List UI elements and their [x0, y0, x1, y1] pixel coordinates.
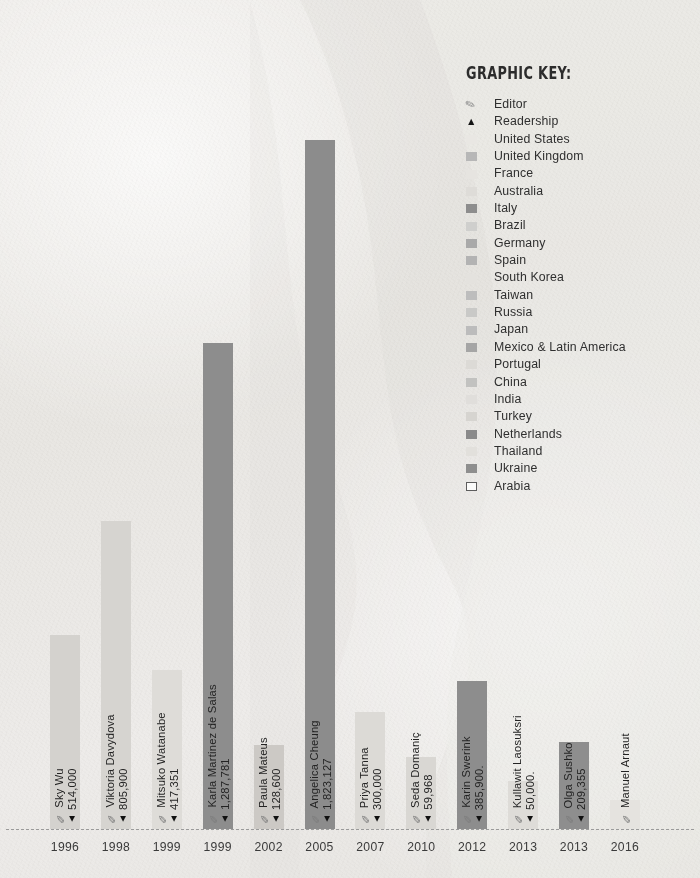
- x-axis-baseline: [6, 829, 694, 830]
- bar: [508, 781, 538, 829]
- x-axis-tick-label: 2002: [244, 840, 294, 854]
- bar: [203, 343, 233, 829]
- x-axis-tick-label: 2016: [600, 840, 650, 854]
- x-axis-tick-label: 2013: [498, 840, 548, 854]
- bar: [254, 745, 284, 829]
- x-axis-tick-label: 2010: [396, 840, 446, 854]
- bar: [50, 635, 80, 829]
- bar: [305, 140, 335, 829]
- bar-chart-plot: ✎Sky Wu▲514,000✎Viktoria Davydova▲805,90…: [0, 0, 700, 878]
- x-axis-tick-label: 2005: [295, 840, 345, 854]
- bar: [559, 742, 589, 829]
- bar: [101, 521, 131, 829]
- x-axis-tick-label: 2007: [345, 840, 395, 854]
- editor-name: Manuel Arnaut: [618, 733, 630, 808]
- bar: [457, 681, 487, 829]
- x-axis-tick-label: 1999: [142, 840, 192, 854]
- bar-label-group: ✎Manuel Arnaut: [610, 585, 640, 825]
- x-axis-tick-label: 1996: [40, 840, 90, 854]
- x-axis-tick-label: 1999: [193, 840, 243, 854]
- x-axis-tick-label: 2013: [549, 840, 599, 854]
- bar: [610, 800, 640, 829]
- bar: [355, 712, 385, 829]
- bar: [152, 670, 182, 829]
- x-axis-tick-label: 2012: [447, 840, 497, 854]
- bar: [406, 757, 436, 829]
- x-axis-tick-label: 1998: [91, 840, 141, 854]
